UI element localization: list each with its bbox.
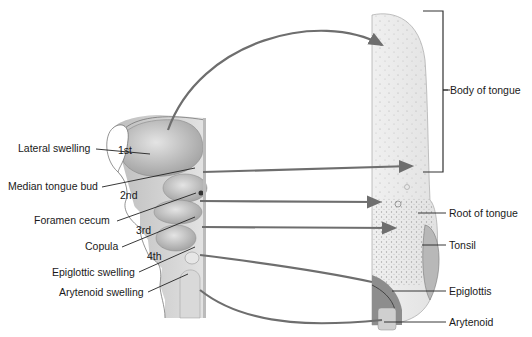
label-arytenoid: Arytenoid	[449, 316, 493, 328]
label-body-of-tongue: Body of tongue	[450, 84, 521, 96]
label-epiglottic-swelling: Epiglottic swelling	[52, 266, 135, 278]
label-arytenoid-swelling: Arytenoid swelling	[59, 286, 144, 298]
arch-number-3: 3rd	[136, 224, 151, 236]
label-copula: Copula	[85, 240, 118, 252]
tongue-development-diagram: 1st 2nd 3rd 4th Lateral swelling Median …	[0, 0, 532, 337]
label-lateral-swelling: Lateral swelling	[18, 142, 90, 154]
label-tonsil: Tonsil	[449, 239, 476, 251]
label-median-tongue-bud: Median tongue bud	[8, 180, 98, 192]
arch-number-2: 2nd	[120, 189, 138, 201]
label-foramen-cecum: Foramen cecum	[34, 214, 110, 226]
label-epiglottis: Epiglottis	[449, 285, 492, 297]
arch-number-4: 4th	[147, 250, 162, 262]
label-root-of-tongue: Root of tongue	[449, 207, 518, 219]
arch-number-1: 1st	[118, 144, 132, 156]
